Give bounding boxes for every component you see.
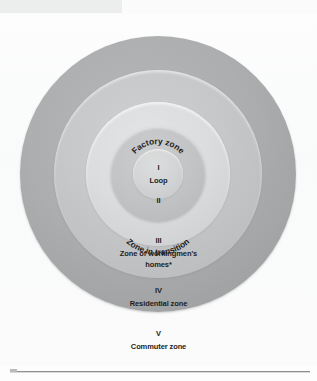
- zone-label-residential-zone: Residential zone: [0, 300, 317, 309]
- zone-ring-loop: [133, 149, 183, 199]
- zone-label-loop: Loop: [0, 177, 317, 186]
- zone-numeral-v: V: [0, 330, 317, 339]
- zone-label-workingmens-homes-line1: Zone of workingmen's: [0, 250, 317, 259]
- zone-numeral-i: I: [0, 164, 317, 173]
- zone-numeral-ii: II: [0, 197, 317, 206]
- concentric-zone-diagram: Factory zone Zone in transition I Loop I…: [0, 0, 317, 381]
- zone-label-workingmens-homes-line2: homes*: [0, 261, 317, 270]
- zone-label-commuter-zone: Commuter zone: [0, 343, 317, 352]
- bottom-divider-cap: [10, 369, 17, 372]
- zone-numeral-iv: IV: [0, 287, 317, 296]
- zone-numeral-iii: III: [0, 237, 317, 246]
- bottom-divider-shadow: [10, 372, 310, 373]
